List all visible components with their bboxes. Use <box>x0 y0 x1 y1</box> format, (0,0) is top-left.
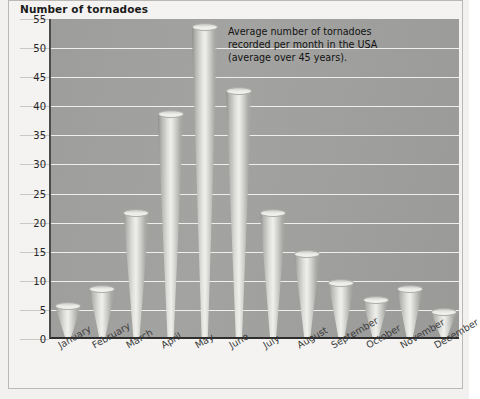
bar-cone <box>123 209 149 337</box>
y-axis-tick-label: 0 <box>40 334 46 345</box>
bar-cone-body <box>294 254 320 337</box>
gridline <box>51 194 459 195</box>
bar <box>192 23 218 337</box>
bar <box>294 250 320 337</box>
bar-cone-body <box>123 213 149 337</box>
bar-cone-body <box>260 213 286 337</box>
gridline <box>51 77 459 78</box>
bar-cone-top <box>226 87 252 95</box>
gridline <box>51 164 459 165</box>
y-axis-tick-label: 15 <box>33 246 46 257</box>
bar-cone <box>260 209 286 337</box>
bar-cone-top <box>397 285 423 293</box>
bar-cone-body <box>226 91 252 337</box>
gridline <box>51 223 459 224</box>
bar-cone-top <box>158 110 184 118</box>
gridline <box>51 135 459 136</box>
plot-area <box>49 19 459 339</box>
gridline <box>51 281 459 282</box>
bar <box>123 209 149 337</box>
annotation-line-3: (average over 45 years). <box>228 51 433 64</box>
bar-cone-body <box>192 27 218 337</box>
bar <box>260 209 286 337</box>
bar-cone <box>192 23 218 337</box>
bar-cone-top <box>328 279 354 287</box>
bar <box>158 110 184 337</box>
bar-cone <box>158 110 184 337</box>
y-axis-tick-label: 25 <box>33 188 46 199</box>
y-axis-tick-label: 40 <box>33 101 46 112</box>
annotation-line-2: recorded per month in the USA <box>228 38 433 51</box>
y-axis-tick-label: 5 <box>40 304 46 315</box>
y-axis-tick-label: 50 <box>33 43 46 54</box>
chart-annotation: Average number of tornadoes recorded per… <box>228 25 433 65</box>
bar-cone-body <box>158 114 184 337</box>
y-axis-tick-label: 35 <box>33 130 46 141</box>
gridline <box>51 106 459 107</box>
gridline <box>51 252 459 253</box>
y-axis-tick-label: 30 <box>33 159 46 170</box>
y-axis: 0510152025303540455055 <box>0 0 49 345</box>
annotation-line-1: Average number of tornadoes <box>228 25 433 38</box>
x-axis: JanuaryFebruaryMarchAprilMayJuneJulyAugu… <box>49 341 459 397</box>
bar <box>226 87 252 337</box>
bar-cone-top <box>294 250 320 258</box>
y-axis-tick-label: 10 <box>33 275 46 286</box>
y-axis-tick-label: 45 <box>33 72 46 83</box>
bar-cone-top <box>89 285 115 293</box>
bar-cone-top <box>192 23 218 31</box>
y-axis-tick-label: 20 <box>33 217 46 228</box>
bar-cone <box>294 250 320 337</box>
y-axis-tick-label: 55 <box>33 14 46 25</box>
bar-cone-top <box>260 209 286 217</box>
bar-cone-top <box>431 308 457 316</box>
bar-cone <box>226 87 252 337</box>
